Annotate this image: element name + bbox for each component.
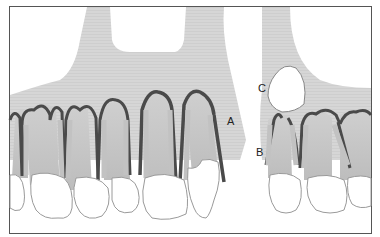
- label-b: B: [256, 146, 263, 158]
- tooth-canine: [143, 174, 188, 219]
- tooth-first-molar: [31, 173, 73, 218]
- label-c: C: [258, 82, 266, 94]
- roots-right: [268, 111, 371, 180]
- label-a: A: [227, 115, 235, 127]
- dental-diagram: A B C: [0, 0, 380, 237]
